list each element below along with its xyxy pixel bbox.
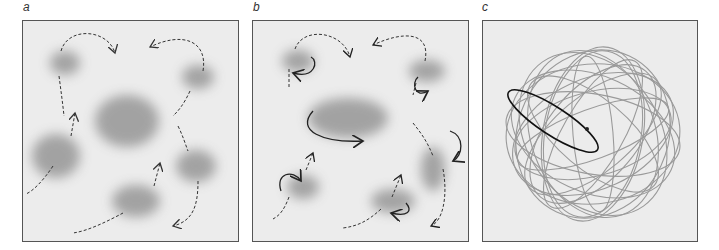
orbits bbox=[488, 24, 697, 242]
panel-c bbox=[482, 20, 698, 242]
focus-dot bbox=[585, 127, 589, 131]
panel-label-c: c bbox=[482, 0, 488, 14]
panel-label-b: b bbox=[253, 0, 260, 14]
blobs bbox=[32, 51, 216, 217]
panel-label-a: a bbox=[23, 0, 30, 14]
blobs bbox=[282, 50, 445, 213]
panel-c-diagram bbox=[483, 21, 698, 242]
panel-a bbox=[22, 20, 239, 242]
panel-b bbox=[252, 20, 469, 242]
panel-a-diagram bbox=[23, 21, 239, 242]
panel-b-diagram bbox=[253, 21, 469, 242]
